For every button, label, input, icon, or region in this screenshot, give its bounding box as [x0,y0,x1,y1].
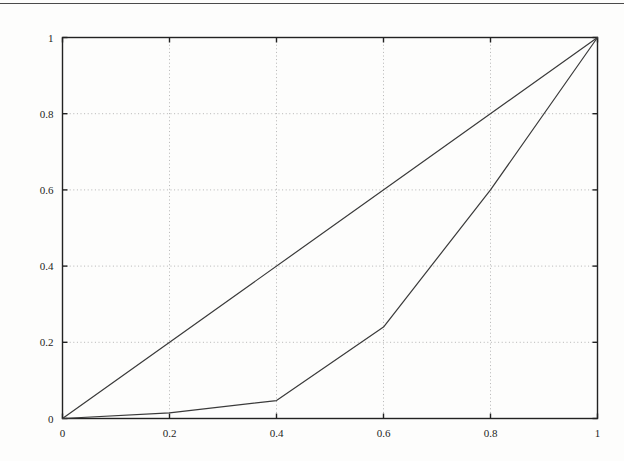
y-tick-label: 0 [48,413,54,425]
data-series-group [63,38,598,419]
x-tick-label: 0.8 [484,427,498,439]
scanned-page: 00.20.40.60.81 00.20.40.60.81 [0,0,624,461]
chart-svg: 00.20.40.60.81 00.20.40.60.81 [0,0,624,461]
x-axis-tick-labels: 00.20.40.60.81 [60,427,601,439]
y-tick-label: 1 [48,32,54,44]
y-tick-label: 0.8 [40,108,54,120]
x-tick-label: 0.2 [163,427,177,439]
y-axis-tick-labels: 00.20.40.60.81 [40,32,54,425]
y-tick-label: 0.2 [40,336,54,348]
x-tick-label: 1 [595,427,601,439]
y-tick-label: 0.6 [40,184,54,196]
x-tick-label: 0.4 [270,427,284,439]
x-tick-label: 0.6 [377,427,391,439]
series-equality-line [63,38,598,419]
y-tick-label: 0.4 [40,260,54,272]
lorenz-curve-figure: 00.20.40.60.81 00.20.40.60.81 [0,0,624,461]
x-tick-label: 0 [60,427,66,439]
